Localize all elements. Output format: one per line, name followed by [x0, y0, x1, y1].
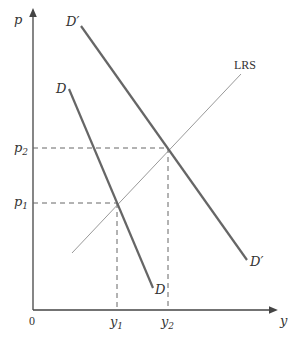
p2-label: p2 — [14, 140, 28, 157]
lrs-demand-shift-diagram: p y 0 D D D′ D′ LRS p1 p2 y1 y2 — [0, 0, 300, 339]
demand-curve-d-prime — [81, 26, 247, 260]
lrs-label: LRS — [234, 58, 256, 72]
d-top-label: D — [55, 81, 67, 96]
y2-label: y2 — [160, 314, 174, 331]
p1-label: p1 — [14, 194, 28, 211]
d-prime-top-label: D′ — [65, 14, 79, 29]
origin-label: 0 — [29, 314, 35, 328]
y1-label: y1 — [109, 314, 123, 331]
demand-curve-d — [69, 89, 153, 288]
x-axis-label: y — [279, 313, 288, 328]
d-prime-bottom-label: D′ — [249, 254, 263, 269]
y-axis-label: p — [14, 12, 23, 27]
lrs-curve — [72, 74, 241, 253]
d-bottom-label: D — [154, 282, 166, 297]
